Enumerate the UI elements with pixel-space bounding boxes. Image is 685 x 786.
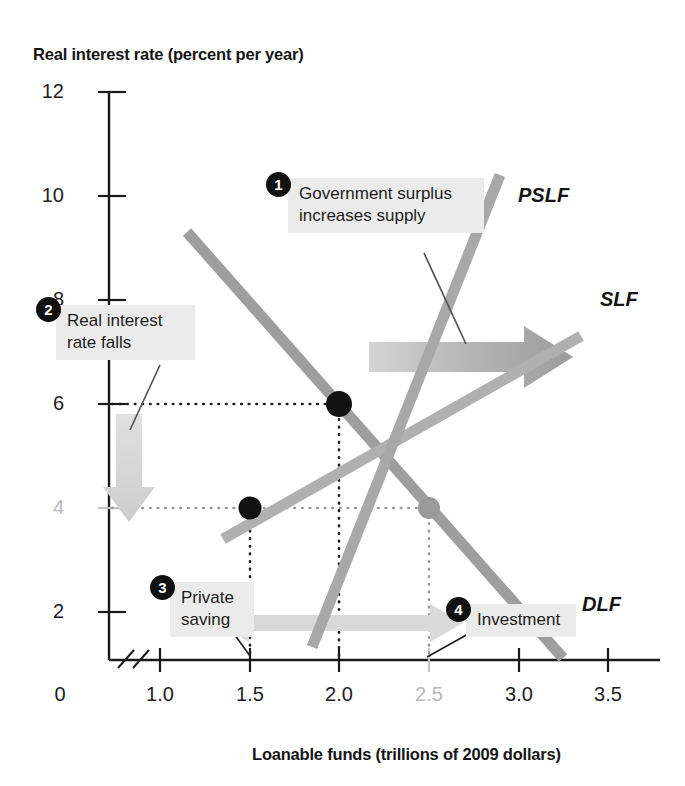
callout-badge-2: 2 (36, 297, 61, 322)
x-tick-2-0: 2.0 (312, 683, 366, 706)
rate-fall-arrow (103, 414, 155, 522)
loanable-funds-market-figure: Real interest rate (percent per year) Lo… (0, 0, 685, 786)
y-tick-10: 10 (30, 184, 64, 207)
x-tick-3-5: 3.5 (581, 683, 635, 706)
callout-badge-1: 1 (266, 172, 291, 197)
x-tick-1-5: 1.5 (223, 683, 277, 706)
y-tick-12: 12 (30, 80, 64, 103)
x-tick-1-0: 1.0 (133, 683, 187, 706)
pslf-curve-label: PSLF (518, 184, 569, 207)
x-tick-0: 0 (33, 683, 87, 706)
callout-badge-4: 4 (446, 597, 471, 622)
slf-curve-label: SLF (600, 288, 638, 311)
equilibrium-after-marker (418, 497, 440, 519)
callout-government-surplus: Government surplus increases supply (288, 178, 484, 233)
y-tick-4: 4 (30, 496, 64, 519)
leader-line-2 (130, 365, 160, 430)
equilibrium-before-marker (326, 391, 352, 417)
y-tick-2: 2 (30, 600, 64, 623)
private-saving-marker (239, 497, 262, 520)
callout-private-saving: Private saving (170, 582, 254, 637)
dlf-curve-label: DLF (582, 593, 621, 616)
x-tick-2-5: 2.5 (402, 683, 456, 706)
x-tick-3-0: 3.0 (492, 683, 546, 706)
callout-real-interest-rate-falls: Real interest rate falls (56, 305, 195, 360)
callout-badge-3: 3 (150, 575, 175, 600)
callout-investment: Investment (466, 604, 576, 637)
chart-plot-area (0, 0, 685, 786)
y-tick-6: 6 (30, 392, 64, 415)
